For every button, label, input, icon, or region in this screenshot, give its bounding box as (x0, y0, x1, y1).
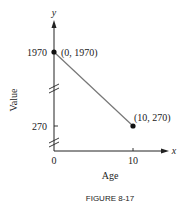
y-axis-arrow-icon (52, 20, 57, 28)
y-axis-label: Value (8, 88, 19, 111)
data-point-0 (51, 49, 56, 54)
data-label-0: (0, 1970) (61, 47, 98, 59)
data-point-1 (130, 123, 135, 128)
x-axis-arrow-icon (161, 149, 169, 154)
y-tick-label-1970: 1970 (27, 47, 47, 58)
x-tick-label-0: 0 (52, 155, 57, 166)
figure-caption: FIGURE 8-17 (86, 194, 135, 203)
x-axis-label: Age (102, 170, 119, 181)
series-line (54, 52, 133, 126)
x-tick-label-10: 10 (128, 155, 138, 166)
chart: y x 1970 270 0 10 (0, 1970) (10, 270) Ag… (0, 0, 186, 203)
y-tick-label-270: 270 (32, 121, 47, 132)
y-axis-symbol: y (51, 7, 57, 18)
x-axis-symbol: x (171, 145, 177, 156)
data-label-1: (10, 270) (134, 112, 171, 124)
